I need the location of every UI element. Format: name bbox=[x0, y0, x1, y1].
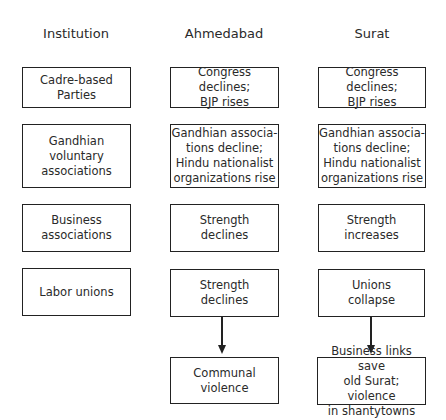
box-text-line: Hindu nationalist bbox=[172, 156, 278, 171]
box-text-line: organizations rise bbox=[172, 171, 278, 186]
box-surat-gandhian: Gandhian associa-tions decline;Hindu nat… bbox=[318, 124, 426, 188]
box-text-line: associations bbox=[41, 164, 112, 179]
box-text-line: in shantytowns bbox=[318, 404, 425, 419]
box-text-line: Cadre-based bbox=[40, 73, 113, 88]
arrow-head-icon bbox=[218, 345, 226, 354]
box-ahmedabad-parties: Congress declines;BJP rises bbox=[170, 67, 279, 108]
box-outcome-ahmedabad: Communalviolence bbox=[170, 357, 279, 404]
box-text-line: associations bbox=[41, 228, 112, 243]
box-text-line: Communal bbox=[193, 366, 255, 381]
box-surat-labor: Unionscollapse bbox=[318, 269, 425, 317]
box-text-line: increases bbox=[344, 228, 398, 243]
box-institution-gandhian: Gandhianvoluntaryassociations bbox=[22, 124, 131, 188]
box-text-line: Congress declines; bbox=[319, 65, 425, 95]
box-text-line: Business links save bbox=[318, 344, 425, 374]
box-text-line: Gandhian bbox=[41, 134, 112, 149]
box-text-line: Hindu nationalist bbox=[319, 156, 425, 171]
box-text-line: Parties bbox=[40, 88, 113, 103]
box-text-line: organizations rise bbox=[319, 171, 425, 186]
box-institution-cadre-parties: Cadre-basedParties bbox=[22, 67, 131, 108]
box-text-line: tions decline; bbox=[172, 141, 278, 156]
header-institution: Institution bbox=[16, 24, 136, 44]
box-text-line: voluntary bbox=[41, 149, 112, 164]
box-text-line: Gandhian associa- bbox=[319, 126, 425, 141]
box-text-line: violence bbox=[193, 381, 255, 396]
header-surat: Surat bbox=[312, 24, 432, 44]
box-text-line: collapse bbox=[348, 293, 395, 308]
arrow-line bbox=[221, 317, 223, 347]
box-text-line: Business bbox=[41, 213, 112, 228]
box-text-line: declines bbox=[200, 228, 250, 243]
box-text-line: Strength bbox=[200, 213, 250, 228]
box-surat-parties: Congress declines;BJP rises bbox=[318, 67, 426, 108]
box-text-line: tions decline; bbox=[319, 141, 425, 156]
box-text-line: BJP rises bbox=[171, 95, 278, 110]
box-text-line: Gandhian associa- bbox=[172, 126, 278, 141]
box-text-line: Strength bbox=[344, 213, 398, 228]
box-text-line: Congress declines; bbox=[171, 65, 278, 95]
header-ahmedabad: Ahmedabad bbox=[164, 24, 284, 44]
arrow-line bbox=[370, 317, 372, 347]
box-ahmedabad-labor: Strengthdeclines bbox=[170, 269, 279, 317]
box-surat-business: Strengthincreases bbox=[318, 204, 425, 252]
box-ahmedabad-business: Strengthdeclines bbox=[170, 204, 279, 252]
box-text-line: Labor unions bbox=[39, 285, 113, 300]
box-text-line: Unions bbox=[348, 278, 395, 293]
box-text-line: declines bbox=[200, 293, 250, 308]
box-text-line: Strength bbox=[200, 278, 250, 293]
box-outcome-surat: Business links saveold Surat; violencein… bbox=[317, 357, 426, 405]
box-ahmedabad-gandhian: Gandhian associa-tions decline;Hindu nat… bbox=[170, 124, 279, 188]
box-text-line: old Surat; violence bbox=[318, 374, 425, 404]
box-text-line: BJP rises bbox=[319, 95, 425, 110]
box-institution-labor: Labor unions bbox=[22, 268, 131, 316]
box-institution-business: Businessassociations bbox=[22, 204, 131, 252]
